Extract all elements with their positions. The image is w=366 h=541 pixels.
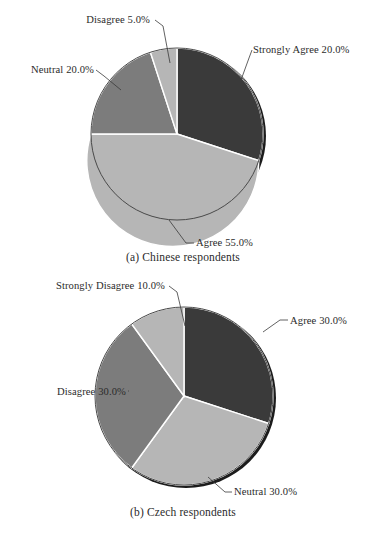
leader-line-agree [263, 320, 288, 332]
figure-caption-chinese: (a) Chinese respondents [0, 251, 366, 263]
pie-chart-czech: Agree 30.0% Strongly Disagree 10.0% Disa… [0, 270, 366, 508]
slice-label-neutral: Neutral 30.0% [234, 486, 297, 497]
slice-label-strongly-agree: Strongly Agree 20.0% [253, 44, 350, 55]
slice-label-agree: Agree 30.0% [290, 315, 347, 326]
slice-label-strongly-disagree: Strongly Disagree 10.0% [56, 280, 165, 291]
leader-line-strongly-agree [241, 50, 252, 80]
slice-label-disagree: Disagree 30.0% [57, 386, 126, 397]
slice-label-neutral: Neutral 20.0% [31, 64, 94, 75]
figure-chinese-respondents: Strongly Agree 20.0% Disagree 5.0% Neutr… [0, 0, 366, 270]
figure-czech-respondents: Agree 30.0% Strongly Disagree 10.0% Disa… [0, 270, 366, 541]
slice-label-disagree: Disagree 5.0% [86, 14, 150, 25]
pie-chart-chinese: Strongly Agree 20.0% Disagree 5.0% Neutr… [0, 0, 366, 248]
slice-label-agree: Agree 55.0% [196, 237, 253, 248]
figure-caption-czech: (b) Czech respondents [0, 506, 366, 518]
